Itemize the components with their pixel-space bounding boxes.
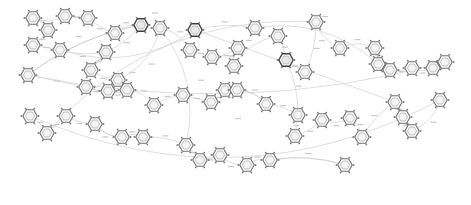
graph-node[interactable] bbox=[229, 40, 248, 57]
node-vertex-dot bbox=[145, 104, 147, 106]
node-vertex-dot bbox=[242, 65, 244, 67]
graph-node[interactable] bbox=[225, 58, 244, 75]
node-vertex-dot bbox=[36, 25, 38, 27]
node-vertex-dot bbox=[185, 42, 187, 44]
node-vertex-dot bbox=[381, 69, 383, 71]
graph-node[interactable] bbox=[336, 157, 355, 174]
graph-node[interactable] bbox=[286, 128, 305, 145]
node-vertex-dot bbox=[431, 99, 433, 101]
node-vertex-dot bbox=[269, 96, 271, 98]
node-vertex-dot bbox=[28, 52, 30, 54]
node-vertex-dot bbox=[61, 123, 63, 125]
graph-node[interactable] bbox=[203, 49, 222, 66]
graph-node[interactable] bbox=[21, 108, 40, 125]
node-vertex-dot bbox=[208, 159, 210, 161]
graph-node[interactable] bbox=[132, 17, 151, 34]
graph-node[interactable] bbox=[186, 22, 205, 39]
node-vertex-dot bbox=[36, 10, 38, 12]
node-vertex-dot bbox=[117, 144, 119, 146]
node-vertex-dot bbox=[144, 32, 146, 34]
edge-label bbox=[307, 131, 313, 132]
node-vertex-dot bbox=[211, 154, 213, 156]
node-vertex-dot bbox=[311, 29, 313, 31]
graph-node[interactable] bbox=[289, 107, 308, 124]
graph-node[interactable] bbox=[145, 97, 164, 114]
graph-node[interactable] bbox=[77, 79, 96, 96]
graph-node[interactable] bbox=[403, 60, 422, 77]
hexagon-inner-ring bbox=[385, 66, 394, 74]
hexagon-inner-ring bbox=[155, 24, 164, 32]
graph-node[interactable] bbox=[82, 62, 101, 79]
graph-node[interactable] bbox=[51, 42, 70, 59]
edge-label bbox=[130, 131, 136, 132]
node-vertex-dot bbox=[136, 32, 138, 34]
graph-node[interactable] bbox=[19, 67, 38, 84]
node-vertex-dot bbox=[134, 136, 136, 138]
node-vertex-dot bbox=[257, 103, 259, 105]
node-vertex-dot bbox=[365, 129, 367, 131]
hexagon-inner-ring bbox=[113, 76, 122, 84]
graph-node[interactable] bbox=[24, 10, 43, 27]
graph-node[interactable] bbox=[269, 28, 288, 45]
node-vertex-dot bbox=[28, 10, 30, 12]
node-vertex-dot bbox=[424, 67, 426, 69]
node-vertex-dot bbox=[229, 58, 231, 60]
node-vertex-dot bbox=[394, 116, 396, 118]
node-vertex-dot bbox=[223, 147, 225, 149]
node-vertex-dot bbox=[273, 28, 275, 30]
node-vertex-dot bbox=[28, 25, 30, 27]
graph-node[interactable] bbox=[386, 94, 405, 111]
graph-node[interactable] bbox=[228, 82, 247, 99]
graph-node[interactable] bbox=[238, 157, 257, 174]
graph-node[interactable] bbox=[56, 8, 75, 25]
node-vertex-dot bbox=[319, 29, 321, 31]
node-vertex-dot bbox=[415, 123, 417, 125]
edge-label bbox=[198, 80, 204, 81]
node-vertex-dot bbox=[103, 98, 105, 100]
graph-node[interactable] bbox=[151, 20, 170, 37]
node-vertex-dot bbox=[308, 64, 310, 66]
hexagon-inner-ring bbox=[428, 64, 437, 72]
graph-node[interactable] bbox=[246, 20, 265, 37]
node-vertex-dot bbox=[198, 22, 200, 24]
node-vertex-dot bbox=[149, 97, 151, 99]
graph-node[interactable] bbox=[181, 42, 200, 59]
node-vertex-dot bbox=[233, 55, 235, 57]
graph-node[interactable] bbox=[191, 152, 210, 169]
node-vertex-dot bbox=[289, 67, 291, 69]
node-vertex-dot bbox=[174, 94, 176, 96]
node-vertex-dot bbox=[41, 44, 43, 46]
hexagon-inner-ring bbox=[273, 32, 282, 40]
node-vertex-dot bbox=[228, 89, 230, 91]
node-vertex-dot bbox=[390, 109, 392, 111]
node-vertex-dot bbox=[101, 44, 103, 46]
node-vertex-dot bbox=[24, 44, 26, 46]
node-vertex-dot bbox=[324, 21, 326, 23]
node-vertex-dot bbox=[178, 87, 180, 89]
graph-node[interactable] bbox=[177, 137, 196, 154]
graph-node[interactable] bbox=[431, 92, 450, 109]
hexagon-inner-ring bbox=[149, 101, 158, 109]
graph-node[interactable] bbox=[257, 96, 276, 113]
graph-node[interactable] bbox=[134, 129, 153, 146]
node-vertex-dot bbox=[369, 63, 371, 65]
edge-label bbox=[152, 12, 158, 13]
graph-node[interactable] bbox=[394, 109, 413, 126]
node-vertex-dot bbox=[281, 52, 283, 54]
hexagon-inner-ring bbox=[242, 161, 251, 169]
graph-node[interactable] bbox=[106, 25, 125, 42]
graph-node[interactable] bbox=[39, 22, 58, 39]
node-vertex-dot bbox=[353, 164, 355, 166]
graph-node[interactable] bbox=[113, 129, 132, 146]
node-vertex-dot bbox=[365, 144, 367, 146]
graph-node[interactable] bbox=[366, 40, 385, 57]
node-vertex-dot bbox=[263, 27, 265, 29]
node-vertex-dot bbox=[269, 111, 271, 113]
node-vertex-dot bbox=[398, 94, 400, 96]
graph-node[interactable] bbox=[202, 94, 221, 111]
node-vertex-dot bbox=[191, 94, 193, 96]
edge-label bbox=[296, 85, 302, 86]
node-vertex-dot bbox=[125, 144, 127, 146]
graph-node[interactable] bbox=[86, 116, 105, 133]
node-vertex-dot bbox=[307, 21, 309, 23]
